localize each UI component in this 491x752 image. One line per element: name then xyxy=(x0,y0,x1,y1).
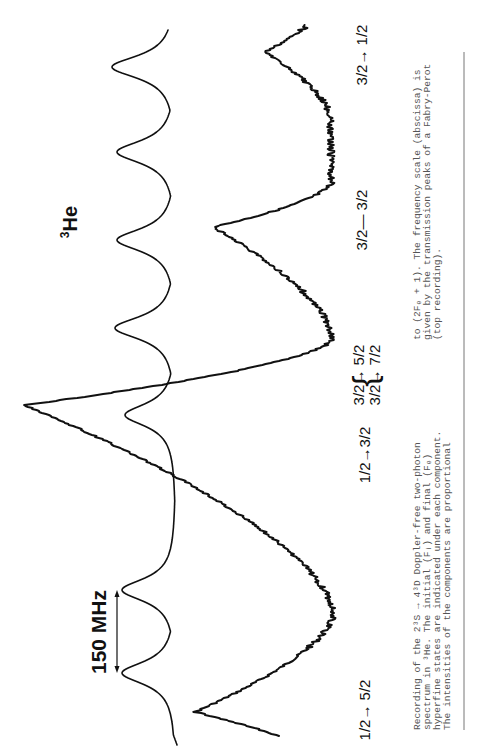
caption-line: The intensities of the components are pr… xyxy=(442,442,453,730)
caption: Recording of the 2³S → 4³D Doppler-free … xyxy=(412,52,464,730)
caption-column-1: Recording of the 2³S → 4³D Doppler-free … xyxy=(412,431,453,730)
spectrum-trace xyxy=(24,25,335,736)
transition-label-2: 1/2→3/2 xyxy=(356,427,373,484)
transition-label-6: 3/2→ 1/2 xyxy=(353,25,370,86)
element-label: 3He xyxy=(58,206,81,238)
caption-column-2: to (2Fₑ + 1). The frequency scale (absci… xyxy=(412,64,443,340)
arrow-down-icon xyxy=(115,666,120,673)
spectrum-figure: 150 MHz 3He 1/2→ 5/2 1/2→3/2 { 3/2→ 5/2 … xyxy=(0,0,491,752)
caption-line: (top recording). xyxy=(432,248,443,340)
transition-label-5: 3/2— 3/2 xyxy=(353,190,370,251)
transition-label-4: 3/2→ 7/2 xyxy=(366,345,383,406)
scale-bar: 150 MHz xyxy=(87,590,120,674)
transition-label-1: 1/2→ 5/2 xyxy=(356,680,373,741)
arrow-up-icon xyxy=(115,590,120,597)
transition-label-3: 3/2→ 5/2 xyxy=(350,345,367,406)
element-symbol: He xyxy=(59,206,81,232)
scale-bar-label: 150 MHz xyxy=(87,590,110,674)
svg-text:3He: 3He xyxy=(58,206,81,238)
